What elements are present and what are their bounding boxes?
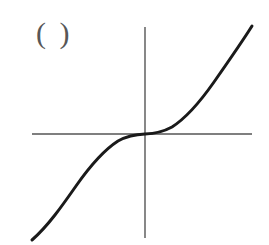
cubic-curve (32, 26, 252, 240)
subfigure-label: ( ) (36, 18, 72, 48)
figure-container: ( ) (0, 0, 269, 245)
